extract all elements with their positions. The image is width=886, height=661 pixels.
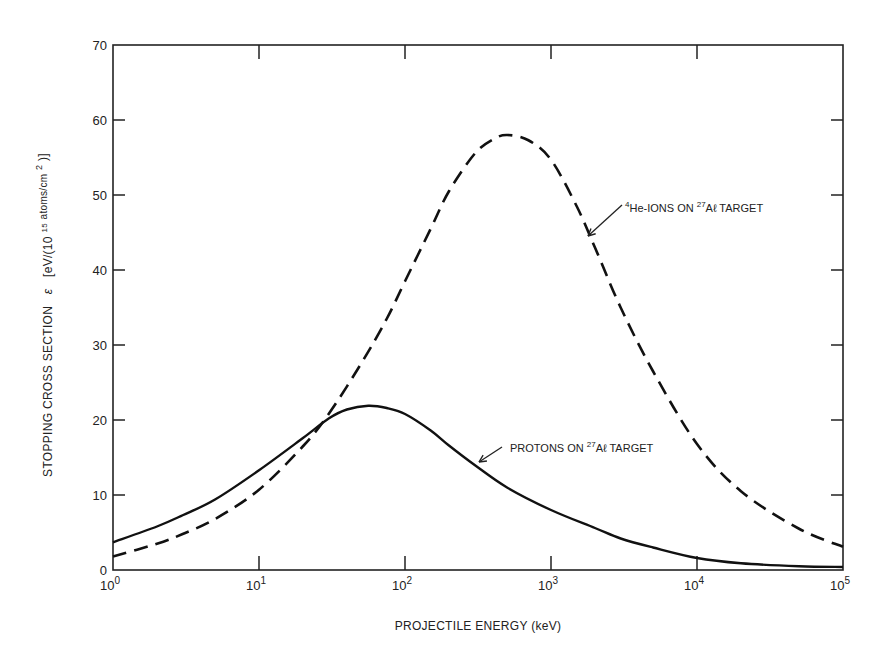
- y-tick-label: 20: [93, 413, 107, 428]
- y-axis-title-main: STOPPING CROSS SECTION: [41, 306, 55, 477]
- y-axis-title-unit-exp2: 2: [34, 165, 44, 170]
- y-axis-title-unit-exp: 15: [40, 223, 49, 233]
- stopping-cross-section-chart: 100101102103104105 010203040506070 4He-I…: [0, 0, 886, 661]
- chart-background: [0, 0, 886, 661]
- y-axis-title-unit-mid: atoms/cm: [38, 174, 49, 220]
- y-axis-title-unit-pre: [eV/(10: [41, 236, 55, 277]
- y-tick-label: 70: [93, 38, 107, 53]
- y-axis-title-symbol: ε: [41, 288, 55, 294]
- y-tick-label: 40: [93, 263, 107, 278]
- y-tick-label: 10: [93, 488, 107, 503]
- y-tick-label: 50: [93, 188, 107, 203]
- y-tick-label: 0: [100, 563, 107, 578]
- y-tick-label: 30: [93, 338, 107, 353]
- x-axis-title: PROJECTILE ENERGY (keV): [395, 619, 562, 633]
- y-tick-label: 60: [93, 113, 107, 128]
- annotation-label: PROTONS ON 27Aℓ TARGET: [510, 440, 654, 454]
- annotation-label: 4He-IONS ON 27Aℓ TARGET: [625, 200, 763, 214]
- y-axis-title-unit-post: )]: [36, 153, 50, 161]
